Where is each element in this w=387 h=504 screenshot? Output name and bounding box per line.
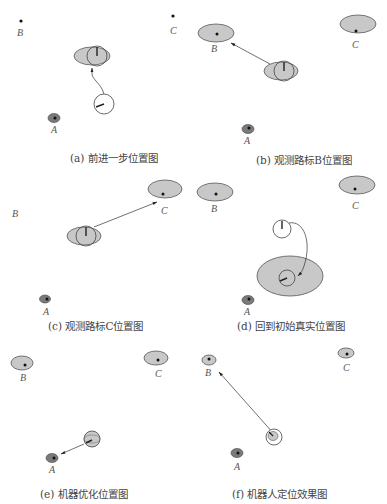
landmark-c-dot [346,353,349,356]
landmark-c-label: C [170,25,177,36]
landmark-a-label: A [42,306,50,317]
landmark-a-label: A [50,124,58,135]
landmark-b-label: B [20,372,26,383]
robot-body [84,431,100,447]
landmark-b-dot [24,364,27,367]
panel-e-drawing: B C A [0,336,193,504]
landmark-a-label: A [243,306,251,317]
motion-path [92,68,104,98]
landmark-a-dot [54,117,57,120]
panel-d-drawing: B C A [194,168,387,336]
landmark-a-dot [53,457,56,460]
landmark-b-label: B [205,367,211,378]
caption-c: (c) 观测路标C位置图 [48,318,143,333]
caption-f: (f) 机器人定位效果图 [232,486,327,501]
landmark-a-ellipse [46,454,58,463]
landmark-c-ellipse [340,15,376,33]
landmark-c-label: C [155,368,162,379]
observation-arrow-a [61,444,84,454]
panel-f: B C A (f) 机器人定位效果图 [194,336,387,504]
landmark-a-dot [46,298,49,301]
panel-a: B C A (a) 前进一步位置图 [0,0,193,168]
panel-f-drawing: B C A [194,336,387,504]
landmark-b-dot [19,19,22,22]
landmark-b-dot [215,193,218,196]
robot-uncertainty-ellipse-large [257,256,323,296]
landmark-c-label: C [352,39,359,50]
caption-a: (a) 前进一步位置图 [70,150,158,165]
landmark-a-label: A [48,464,56,475]
landmark-c-label: C [161,205,168,216]
landmark-c-dot [157,359,160,362]
landmark-b-label: B [211,43,217,54]
landmark-b-ellipse [11,356,33,370]
robot-uncertainty-ellipse [264,62,298,80]
landmark-c-ellipse [144,351,168,365]
panel-e: B C A (e) 机器优化位置图 [0,336,193,504]
caption-b: (b) 观测路标B位置图 [256,152,352,167]
landmark-c-dot [355,30,358,33]
caption-e: (e) 机器优化位置图 [40,486,128,501]
landmark-a-label: A [233,461,241,472]
landmark-a-dot [248,127,251,130]
landmark-b-dot [216,33,219,36]
landmark-b-dot [208,358,211,361]
observation-arrow-c [94,202,157,227]
landmark-c-dot [354,188,357,191]
landmark-a-ellipse [40,295,51,303]
landmark-c-dot [171,14,174,17]
panel-b: B C A (b) 观测路标B位置图 [194,0,387,168]
observation-arrow-b [219,372,274,434]
landmark-c-ellipse [339,176,375,194]
panel-c: B C A (c) 观测路标C位置图 [0,168,193,336]
observation-arrow-b [231,43,270,64]
landmark-b-label: B [211,203,217,214]
landmark-a-dot [248,298,251,301]
panel-c-drawing: B C A [0,168,193,336]
landmark-c-dot [162,193,165,196]
panel-b-drawing: B C A [194,0,387,168]
landmark-c-label: C [352,200,359,211]
caption-d: (d) 回到初始真实位置图 [237,318,345,333]
landmark-a-label: A [243,135,251,146]
landmark-b-label: B [12,208,18,219]
panel-d: B C A (d) 回到初始真实位置图 [194,168,387,336]
landmark-c-ellipse [148,180,182,198]
landmark-c-label: C [343,362,350,373]
landmark-b-ellipse [197,183,233,201]
landmark-b-label: B [17,27,23,38]
panel-a-drawing: B C A [0,0,193,168]
landmark-a-dot [237,452,240,455]
